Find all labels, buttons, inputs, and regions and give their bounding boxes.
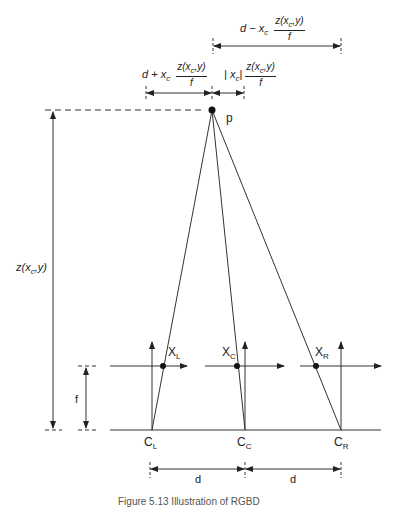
fraction: z(xc,y) f: [274, 16, 304, 42]
cam-sub: C: [246, 442, 252, 451]
camera-label-center: CC: [237, 436, 251, 451]
cam-main: C: [237, 435, 246, 449]
proj-sub: R: [323, 352, 329, 361]
fraction: z(xc,y) f: [245, 62, 275, 88]
proj-main: X: [222, 345, 230, 359]
denominator: f: [245, 77, 275, 88]
formula-prefix: | x: [224, 68, 235, 80]
projection-rays: [152, 110, 341, 430]
formula-subscript: c: [264, 28, 268, 37]
camera-label-right: CR: [334, 436, 348, 451]
formula-subscript: c: [166, 74, 170, 83]
numerator: z(x: [246, 61, 259, 72]
projection-label-right: XR: [315, 346, 329, 361]
depth-label: z(xc,y): [16, 262, 47, 276]
dimension-left-span: [146, 86, 244, 100]
fraction: z(xc,y) f: [176, 62, 206, 88]
cam-sub: L: [153, 442, 157, 451]
baseline-label-left: d: [195, 474, 201, 485]
numerator-rest: ,y): [195, 61, 206, 72]
formula-center-span: | xc| z(xc,y) f: [224, 62, 276, 88]
baseline-dimension: [150, 462, 341, 478]
formula-prefix: d + x: [142, 68, 166, 80]
numerator-rest: ,y): [293, 15, 304, 26]
figure-caption: Figure 5.13 Illustration of RGBD: [118, 496, 260, 507]
depth-label-rest: ,y): [35, 261, 47, 273]
cam-sub: R: [343, 442, 349, 451]
projection-label-left: XL: [168, 346, 180, 361]
cam-main: C: [144, 435, 153, 449]
projection-label-center: XC: [222, 346, 236, 361]
point-p: [209, 107, 216, 114]
formula-prefix: d − x: [240, 22, 264, 34]
numerator: z(x: [177, 61, 190, 72]
denominator: f: [274, 31, 304, 42]
baseline-label-right: d: [290, 474, 296, 485]
formula-suffix: |: [239, 68, 242, 80]
numerator: z(x: [275, 15, 288, 26]
focal-length-label: f: [75, 394, 78, 405]
depth-label-main: z(x: [16, 261, 31, 273]
proj-sub: C: [230, 352, 236, 361]
proj-main: X: [315, 345, 323, 359]
cam-main: C: [334, 435, 343, 449]
formula-right-span: d − xc z(xc,y) f: [240, 16, 305, 42]
numerator-rest: ,y): [264, 61, 275, 72]
denominator: f: [176, 77, 206, 88]
formula-left-span: d + xc z(xc,y) f: [142, 62, 207, 88]
point-p-label: p: [226, 112, 233, 124]
proj-sub: L: [176, 352, 180, 361]
proj-main: X: [168, 345, 176, 359]
camera-label-left: CL: [144, 436, 157, 451]
